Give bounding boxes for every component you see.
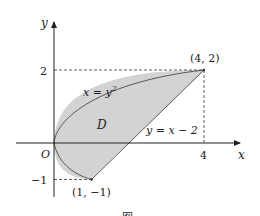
point-1-minus1-dot — [90, 178, 92, 180]
tick-label-x4: 4 — [200, 149, 207, 162]
point-label-4-2: (4, 2) — [190, 52, 220, 65]
point-label-1-minus1: (1, −1) — [72, 186, 111, 199]
point-4-2-dot — [203, 69, 205, 71]
origin-label: O — [41, 148, 50, 161]
x-axis-label: x — [238, 148, 245, 162]
region-label-d: D — [96, 118, 107, 132]
line-equation-label: y = x − 2 — [145, 124, 198, 137]
y-axis-label: y — [40, 16, 48, 30]
region-diagram: y x O 2 −1 4 (4, 2) (1, −1) x = y2 y = x… — [0, 0, 260, 216]
figure-caption: 图 — [122, 212, 133, 216]
tick-label-y2: 2 — [40, 65, 47, 78]
tick-label-y-minus1: −1 — [31, 174, 47, 187]
